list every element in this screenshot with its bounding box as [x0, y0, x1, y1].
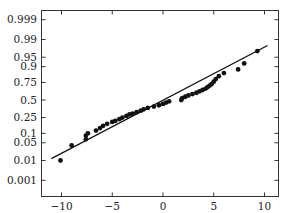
data-point	[222, 71, 227, 76]
data-point	[105, 121, 110, 126]
x-tick-label: −10	[50, 200, 72, 212]
fitted-line	[51, 45, 267, 158]
data-point	[216, 74, 221, 79]
x-tick-label: 10	[258, 200, 271, 212]
x-tick-label: 0	[160, 200, 167, 212]
data-point	[167, 99, 172, 104]
data-point	[157, 103, 162, 108]
data-point	[151, 104, 156, 109]
y-tick-label: 0.999	[7, 13, 37, 25]
data-point	[255, 49, 260, 54]
y-tick-label: 0.5	[20, 94, 37, 106]
data-point	[85, 131, 90, 136]
y-axis: 0.9990.990.950.90.750.50.250.10.050.010.…	[7, 13, 279, 186]
x-axis: −10−50510	[50, 11, 271, 213]
x-tick-label: −5	[105, 200, 120, 212]
y-tick-label: 0.25	[14, 111, 37, 123]
y-tick-label: 0.05	[14, 136, 37, 148]
data-point	[186, 93, 191, 98]
data-point	[242, 61, 247, 66]
data-point	[190, 92, 195, 97]
y-tick-label: 0.001	[7, 174, 37, 186]
data-point	[101, 123, 106, 128]
data-point	[94, 128, 99, 133]
x-tick-label: 5	[210, 200, 217, 212]
normal-probability-plot: −10−50510 0.9990.990.950.90.750.50.250.1…	[0, 0, 294, 213]
data-point	[58, 158, 63, 163]
y-tick-label: 0.9	[20, 60, 37, 72]
y-tick-label: 0.01	[14, 154, 37, 166]
data-point	[236, 67, 241, 72]
data-point	[69, 143, 74, 148]
y-tick-label: 0.75	[14, 76, 37, 88]
data-point	[145, 106, 150, 111]
y-tick-label: 0.99	[14, 33, 37, 45]
